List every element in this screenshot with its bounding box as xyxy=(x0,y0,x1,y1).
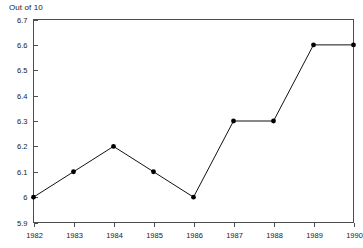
x-tick-label: 1984 xyxy=(106,231,123,240)
x-tick-label: 1982 xyxy=(26,231,43,240)
data-series xyxy=(34,45,354,197)
plot-area: 5.966.16.26.36.46.56.66.7 19821983198419… xyxy=(0,0,363,248)
data-point xyxy=(351,42,356,47)
y-axis-ticks xyxy=(34,21,38,224)
data-point xyxy=(31,195,36,200)
x-tick-label: 1989 xyxy=(306,231,323,240)
y-tick-label: 6.3 xyxy=(17,117,27,126)
y-tick-label: 6.4 xyxy=(17,92,27,101)
x-tick-label: 1987 xyxy=(226,231,243,240)
data-point xyxy=(151,169,156,174)
x-tick-label: 1983 xyxy=(66,231,83,240)
y-axis-labels: 5.966.16.26.36.46.56.66.7 xyxy=(17,16,27,228)
x-tick-label: 1985 xyxy=(146,231,163,240)
x-tick-label: 1986 xyxy=(186,231,203,240)
y-tick-label: 5.9 xyxy=(17,219,27,228)
data-point xyxy=(191,195,196,200)
data-point xyxy=(271,119,276,124)
x-tick-label: 1990 xyxy=(346,231,363,240)
y-tick-label: 6.1 xyxy=(17,168,27,177)
plot-frame xyxy=(34,20,354,223)
y-tick-label: 6 xyxy=(23,193,27,202)
data-point xyxy=(71,169,76,174)
line-chart: Out of 10 5.966.16.26.36.46.56.66.7 1982… xyxy=(0,0,363,248)
data-point xyxy=(111,144,116,149)
x-axis-labels: 198219831984198519861987198819891990 xyxy=(26,231,363,240)
y-tick-label: 6.2 xyxy=(17,142,27,151)
data-point xyxy=(311,42,316,47)
x-axis-ticks xyxy=(35,223,355,227)
data-point xyxy=(231,119,236,124)
y-tick-label: 6.5 xyxy=(17,66,27,75)
y-tick-label: 6.7 xyxy=(17,16,27,25)
y-tick-label: 6.6 xyxy=(17,41,27,50)
x-tick-label: 1988 xyxy=(266,231,283,240)
series-line xyxy=(34,45,354,197)
data-markers xyxy=(31,42,356,199)
